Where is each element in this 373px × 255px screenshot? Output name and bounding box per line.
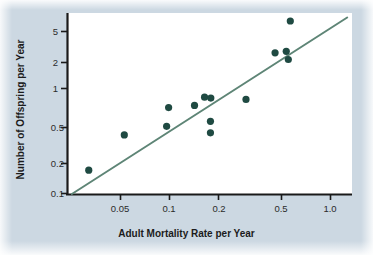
data-point (287, 17, 294, 24)
y-tick-label-0-2: 0.2 (51, 158, 64, 169)
y-tick-label-1: 1 (53, 83, 58, 94)
data-point (163, 123, 170, 130)
data-point (191, 102, 198, 109)
x-tick-label-0-05: 0.05 (111, 203, 130, 214)
y-tick-label-0-5: 0.5 (51, 122, 64, 133)
data-point (271, 49, 278, 56)
data-point (201, 94, 208, 101)
y-tick-label-5: 5 (53, 26, 58, 37)
y-tick-label-2: 2 (53, 57, 58, 68)
x-tick-label-0-2: 0.2 (212, 203, 225, 214)
plot-area (67, 13, 352, 194)
data-point (207, 94, 214, 101)
y-axis-title: Number of Offspring per Year (15, 30, 26, 190)
data-point (285, 56, 292, 63)
figure-panel: 5 2 1 0.5 0.2 0.1 0.05 0.1 0.2 0.5 1.0 A… (0, 0, 373, 255)
data-point (165, 104, 172, 111)
data-point (283, 48, 290, 55)
data-point (121, 131, 128, 138)
data-point (242, 96, 249, 103)
y-axis-ticks (61, 32, 67, 194)
x-tick-label-0-5: 0.5 (274, 203, 287, 214)
data-point (85, 167, 92, 174)
x-tick-label-1-0: 1.0 (323, 203, 336, 214)
data-point (207, 118, 214, 125)
data-point (207, 129, 214, 136)
x-tick-label-0-1: 0.1 (162, 203, 175, 214)
y-tick-label-0-1: 0.1 (51, 188, 64, 199)
x-axis-title: Adult Mortality Rate per Year (0, 228, 373, 239)
